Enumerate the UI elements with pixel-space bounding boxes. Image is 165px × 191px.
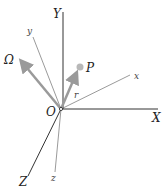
point-P-icon [77,64,84,71]
label-P: P [85,61,95,75]
label-omega: Ω [3,53,14,67]
origin-dot-icon [59,107,62,110]
axis-x [61,75,130,109]
diagram-canvas: X Y Z x y z Ω r P O [0,0,165,191]
label-r: r [74,90,79,100]
label-Y: Y [53,7,62,21]
label-z: z [50,173,56,183]
label-Z: Z [18,175,28,189]
label-x: x [134,71,139,81]
label-X: X [151,111,161,125]
omega-vector-icon [22,62,61,109]
axis-Z [28,109,61,176]
label-O: O [46,105,56,119]
label-y: y [26,26,33,36]
axis-y [33,37,61,109]
